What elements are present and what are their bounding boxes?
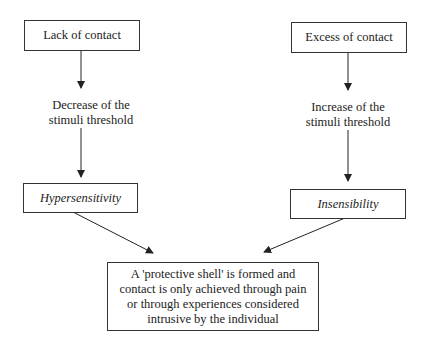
outcome-line3: or through experiences considered bbox=[127, 297, 299, 312]
outcome-line1: A 'protective shell' is formed and bbox=[131, 267, 296, 282]
hypersensitivity-box: Hypersensitivity bbox=[23, 183, 138, 213]
decrease-threshold-line1: Decrease of the bbox=[30, 98, 152, 113]
decrease-threshold-line2: stimuli threshold bbox=[30, 113, 152, 128]
decrease-threshold-text: Decrease of the stimuli threshold bbox=[30, 98, 152, 128]
insensibility-label: Insensibility bbox=[317, 197, 378, 212]
outcome-line4: intrusive by the individual bbox=[147, 312, 279, 327]
increase-threshold-text: Increase of the stimuli threshold bbox=[290, 100, 406, 130]
protective-shell-box: A 'protective shell' is formed and conta… bbox=[107, 262, 319, 331]
increase-threshold-line1: Increase of the bbox=[290, 100, 406, 115]
excess-of-contact-box: Excess of contact bbox=[291, 22, 407, 53]
hypersensitivity-label: Hypersensitivity bbox=[40, 191, 121, 206]
increase-threshold-line2: stimuli threshold bbox=[290, 115, 406, 130]
lack-of-contact-box: Lack of contact bbox=[24, 20, 140, 51]
insensibility-box: Insensibility bbox=[290, 189, 406, 219]
lack-of-contact-label: Lack of contact bbox=[43, 28, 121, 43]
outcome-line2: contact is only achieved through pain bbox=[119, 282, 306, 297]
excess-of-contact-label: Excess of contact bbox=[305, 30, 392, 45]
